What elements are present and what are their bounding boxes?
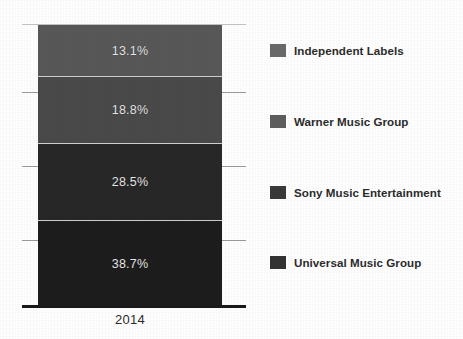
legend-item-label: Universal Music Group	[294, 256, 421, 269]
legend-swatch-icon	[270, 44, 286, 57]
bar-segment-sony-music-entertainment[interactable]: 28.5%	[38, 144, 222, 220]
legend-item-label: Independent Labels	[294, 44, 404, 57]
legend-swatch-icon	[270, 115, 286, 128]
legend-item-label: Sony Music Entertainment	[294, 186, 441, 199]
stacked-bar-chart: 13.1% 18.8% 28.5% 38.7% 2014 Independent…	[0, 0, 463, 339]
legend-item-label: Warner Music Group	[294, 115, 409, 128]
bar-stack-2014: 13.1% 18.8% 28.5% 38.7%	[38, 25, 222, 306]
bar-segment-independent-labels[interactable]: 13.1%	[38, 25, 222, 76]
bar-segment-universal-music-group[interactable]: 38.7%	[38, 221, 222, 306]
legend-item-independent-labels[interactable]: Independent Labels	[270, 44, 404, 57]
bar-segment-value-label: 13.1%	[112, 44, 148, 58]
legend-item-warner-music-group[interactable]: Warner Music Group	[270, 115, 409, 128]
x-axis-tick-label-2014: 2014	[38, 312, 222, 327]
legend-swatch-icon	[270, 186, 286, 199]
chart-legend: Independent Labels Warner Music Group So…	[270, 0, 463, 339]
gridline-tick-right-4	[218, 240, 246, 241]
plot-area: 13.1% 18.8% 28.5% 38.7% 2014	[0, 0, 260, 339]
bar-segment-value-label: 18.8%	[112, 103, 148, 117]
x-axis-line	[22, 305, 246, 308]
bar-segment-value-label: 28.5%	[112, 175, 148, 189]
legend-swatch-icon	[270, 256, 286, 269]
legend-item-sony-music-entertainment[interactable]: Sony Music Entertainment	[270, 186, 441, 199]
legend-item-universal-music-group[interactable]: Universal Music Group	[270, 256, 421, 269]
gridline-tick-right-3	[218, 166, 246, 167]
bar-segment-value-label: 38.7%	[112, 257, 148, 271]
bar-segment-warner-music-group[interactable]: 18.8%	[38, 77, 222, 143]
gridline-tick-right-2	[218, 92, 246, 93]
